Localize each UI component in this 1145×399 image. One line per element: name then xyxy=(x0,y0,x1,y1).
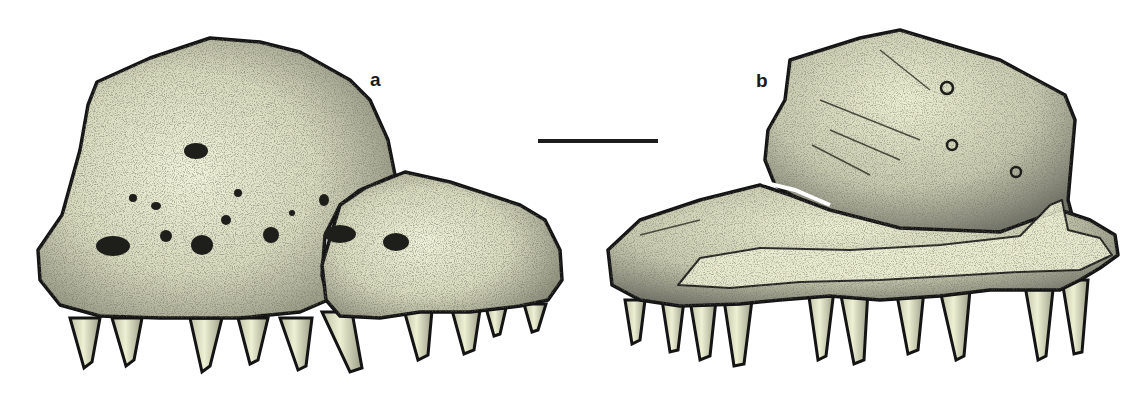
specimen-drawings xyxy=(0,0,1145,399)
specimen-a xyxy=(38,38,562,372)
scale-bar xyxy=(538,139,658,143)
panel-label-a: a xyxy=(370,70,381,89)
specimen-b xyxy=(608,30,1118,366)
panel-label-b: b xyxy=(756,71,768,90)
fossil-jaw-figure: a b xyxy=(0,0,1145,399)
